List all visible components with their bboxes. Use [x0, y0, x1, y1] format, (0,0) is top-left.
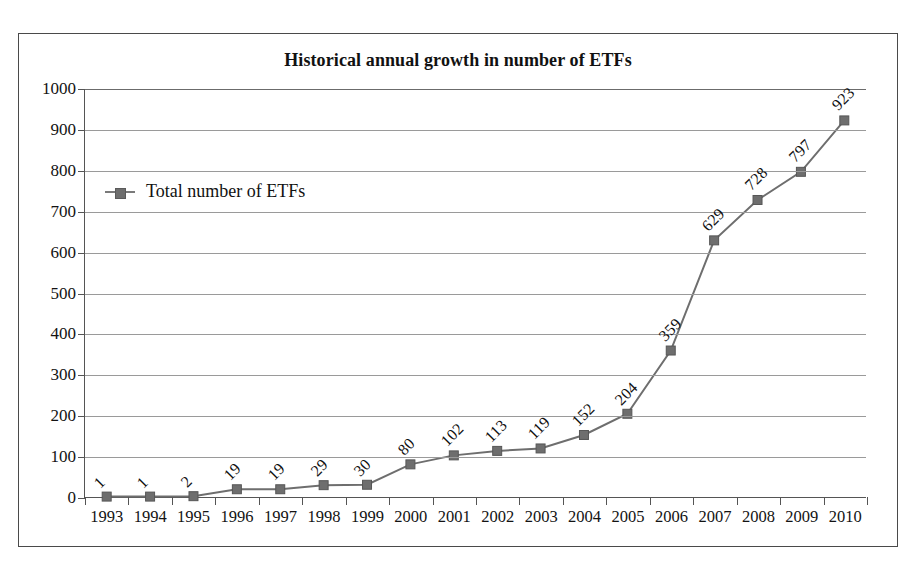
x-axis-tick [693, 497, 694, 505]
x-axis-tick [519, 497, 520, 505]
data-point-marker [536, 444, 545, 453]
data-point-marker [753, 195, 762, 204]
series-line [107, 120, 845, 496]
x-axis-tick-label: 2003 [525, 507, 558, 527]
y-axis-tick-label: 700 [51, 202, 77, 222]
data-point-marker [796, 167, 805, 176]
data-point-marker [102, 492, 111, 501]
chart-legend: Total number of ETFs [105, 181, 305, 202]
x-axis-tick-label: 1993 [90, 507, 123, 527]
x-axis-tick [433, 497, 434, 505]
x-axis-tick-label: 2010 [829, 507, 862, 527]
y-axis-tick [78, 130, 85, 131]
y-axis-tick [78, 498, 85, 499]
data-point-marker [363, 480, 372, 489]
x-axis-tick [476, 497, 477, 505]
x-axis-tick [172, 497, 173, 505]
y-axis-tick-label: 200 [51, 406, 77, 426]
y-axis-tick-label: 0 [68, 488, 77, 508]
x-axis-tick [780, 497, 781, 505]
data-point-marker [449, 451, 458, 460]
x-axis-tick-label: 1999 [351, 507, 384, 527]
y-axis-tick [78, 89, 85, 90]
gridline [85, 294, 866, 295]
gridline [85, 89, 866, 90]
y-axis-tick-label: 500 [51, 284, 77, 304]
gridline [85, 171, 866, 172]
x-axis-tick [389, 497, 390, 505]
y-axis-tick [78, 334, 85, 335]
x-axis-tick [302, 497, 303, 505]
x-axis-tick [737, 497, 738, 505]
x-axis-tick [606, 497, 607, 505]
data-point-marker [276, 485, 285, 494]
data-point-marker [840, 116, 849, 125]
x-axis-tick [346, 497, 347, 505]
x-axis-tick [650, 497, 651, 505]
legend-item-label: Total number of ETFs [146, 181, 305, 202]
y-axis-tick-label: 1000 [42, 79, 76, 99]
x-axis-tick [867, 497, 868, 505]
y-axis-tick-label: 300 [51, 365, 77, 385]
gridline [85, 416, 866, 417]
y-axis-tick [78, 416, 85, 417]
y-axis-tick-label: 600 [51, 243, 77, 263]
x-axis-tick [563, 497, 564, 505]
x-axis-tick-label: 2005 [612, 507, 645, 527]
y-axis-tick-label: 900 [51, 120, 77, 140]
y-axis-tick-label: 100 [51, 447, 77, 467]
y-axis-tick [78, 375, 85, 376]
square-marker-icon [105, 186, 135, 198]
data-point-marker [319, 481, 328, 490]
x-axis-tick-label: 1997 [264, 507, 297, 527]
x-axis-tick-label: 2001 [438, 507, 471, 527]
x-axis-tick [259, 497, 260, 505]
x-axis-tick-label: 2006 [655, 507, 688, 527]
x-axis-tick-label: 1995 [177, 507, 210, 527]
y-axis-tick [78, 457, 85, 458]
x-axis-tick [824, 497, 825, 505]
data-point-marker [493, 446, 502, 455]
gridline [85, 212, 866, 213]
x-axis-tick-label: 2007 [698, 507, 731, 527]
gridline [85, 334, 866, 335]
data-point-marker [406, 460, 415, 469]
x-axis-tick-label: 2000 [394, 507, 427, 527]
y-axis-tick [78, 253, 85, 254]
x-axis-tick-label: 2002 [481, 507, 514, 527]
data-point-marker [710, 236, 719, 245]
x-axis-tick-label: 1996 [221, 507, 254, 527]
plot-area: 01002003004005006007008009001000 1993199… [84, 89, 866, 498]
data-point-marker [189, 492, 198, 501]
x-axis-tick-label: 1998 [307, 507, 340, 527]
x-axis-tick [215, 497, 216, 505]
data-point-marker [579, 430, 588, 439]
y-axis-tick [78, 294, 85, 295]
x-axis-tick [128, 497, 129, 505]
x-axis-tick-label: 2009 [785, 507, 818, 527]
gridline [85, 375, 866, 376]
gridline [85, 457, 866, 458]
x-axis-tick-label: 2008 [742, 507, 775, 527]
gridline [85, 253, 866, 254]
y-axis-tick [78, 212, 85, 213]
x-axis-tick [85, 497, 86, 505]
data-point-marker [146, 492, 155, 501]
gridline [85, 130, 866, 131]
figure-frame: Historical annual growth in number of ET… [18, 33, 898, 547]
x-axis-tick-label: 2004 [568, 507, 601, 527]
y-axis-tick-label: 400 [51, 324, 77, 344]
x-axis-tick-label: 1994 [134, 507, 167, 527]
chart-title: Historical annual growth in number of ET… [19, 50, 897, 71]
data-point-marker [666, 346, 675, 355]
y-axis-tick-label: 800 [51, 161, 77, 181]
y-axis-tick [78, 171, 85, 172]
data-point-marker [232, 485, 241, 494]
